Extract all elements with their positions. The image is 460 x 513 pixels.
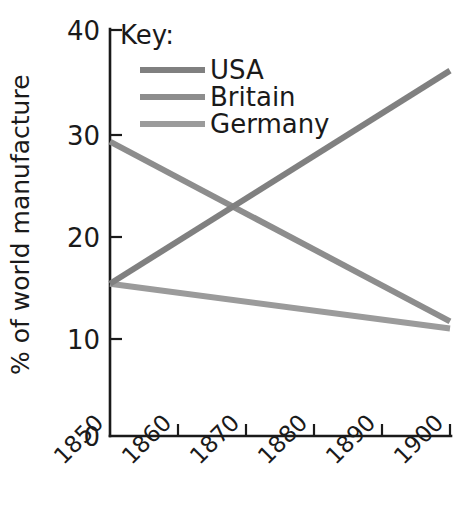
- legend-title: Key:: [120, 22, 174, 48]
- y-axis-title: % of world manufacture: [8, 74, 33, 375]
- series-line-germany: [110, 284, 450, 329]
- y-tick-label-20: 20: [40, 225, 100, 251]
- legend-label-britain: Britain: [210, 84, 296, 110]
- y-tick-label-10: 10: [40, 327, 100, 353]
- y-tick-label-30: 30: [40, 123, 100, 149]
- legend-label-germany: Germany: [210, 111, 330, 137]
- y-tick-label-40: 40: [40, 18, 100, 44]
- legend-label-usa: USA: [210, 57, 264, 83]
- line-chart: % of world manufacture 40 30 20 10 0 185…: [0, 0, 460, 513]
- series-line-britain: [110, 142, 450, 322]
